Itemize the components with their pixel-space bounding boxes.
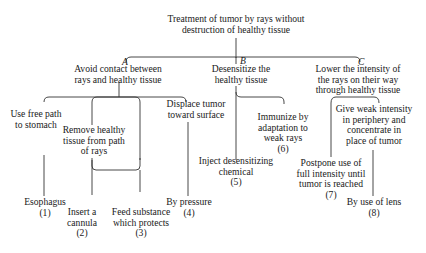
remove-tissue-line-1: Remove healthy bbox=[63, 125, 126, 136]
postpone-line-1: Postpone use of bbox=[297, 158, 366, 169]
immunize-node: Immunize by adaptation to weak rays (6) bbox=[258, 112, 309, 154]
branch-b-line-1: Desensitize the bbox=[212, 64, 270, 75]
displace-tumor-line-1: Displace tumor bbox=[167, 99, 226, 110]
branch-a-line-1: Avoid contact between bbox=[74, 64, 162, 75]
use-free-path-line-2: to stomach bbox=[10, 120, 61, 131]
lens-label: By use of lens bbox=[347, 197, 402, 208]
branch-c-line-3: through healthy tissue bbox=[316, 85, 401, 96]
branch-b-node: Desensitize the healthy tissue bbox=[212, 64, 270, 85]
inject-number: (5) bbox=[199, 177, 273, 188]
remove-tissue-line-3: of rays bbox=[63, 146, 126, 157]
pressure-label: By pressure bbox=[166, 197, 212, 208]
lens-leaf: By use of lens (8) bbox=[347, 197, 402, 218]
branch-c-node: Lower the intensity of the rays on their… bbox=[316, 64, 401, 96]
branch-a-line-2: rays and healthy tissue bbox=[74, 75, 162, 86]
solution-tree-diagram: Treatment of tumor by rays without destr… bbox=[0, 0, 426, 253]
esophagus-label: Esophagus bbox=[24, 197, 66, 208]
inject-node: Inject desensitizing chemical (5) bbox=[199, 156, 273, 188]
use-free-path-line-1: Use free path bbox=[10, 109, 61, 120]
cannula-leaf: Insert a cannula (2) bbox=[67, 207, 97, 239]
use-free-path-node: Use free path to stomach bbox=[10, 109, 61, 130]
feed-substance-leaf: Feed substance which protects (3) bbox=[112, 207, 170, 239]
lens-number: (8) bbox=[347, 208, 402, 219]
pressure-number: (4) bbox=[166, 208, 212, 219]
root-line-1: Treatment of tumor by rays without bbox=[168, 14, 305, 25]
immunize-line-1: Immunize by bbox=[258, 112, 309, 123]
branch-b-line-2: healthy tissue bbox=[212, 75, 270, 86]
weak-intensity-line-4: place of tumor bbox=[336, 136, 413, 147]
cannula-number: (2) bbox=[67, 228, 97, 239]
pressure-leaf: By pressure (4) bbox=[166, 197, 212, 218]
esophagus-number: (1) bbox=[24, 208, 66, 219]
cannula-line-1: Insert a bbox=[67, 207, 97, 218]
esophagus-leaf: Esophagus (1) bbox=[24, 197, 66, 218]
branch-c-line-1: Lower the intensity of bbox=[316, 64, 401, 75]
inject-line-1: Inject desensitizing bbox=[199, 156, 273, 167]
feed-substance-line-1: Feed substance bbox=[112, 207, 170, 218]
root-line-2: destruction of healthy tissue bbox=[168, 25, 305, 36]
weak-intensity-node: Give weak intensity in periphery and con… bbox=[336, 104, 413, 146]
branch-a-node: Avoid contact between rays and healthy t… bbox=[74, 64, 162, 85]
displace-tumor-line-2: toward surface bbox=[167, 110, 226, 121]
feed-substance-number: (3) bbox=[112, 228, 170, 239]
postpone-node: Postpone use of full intensity until tum… bbox=[297, 158, 366, 200]
displace-tumor-node: Displace tumor toward surface bbox=[167, 99, 226, 120]
root-node: Treatment of tumor by rays without destr… bbox=[168, 14, 305, 35]
remove-tissue-node: Remove healthy tissue from path of rays bbox=[63, 125, 126, 157]
weak-intensity-line-1: Give weak intensity bbox=[336, 104, 413, 115]
immunize-number: (6) bbox=[258, 144, 309, 155]
